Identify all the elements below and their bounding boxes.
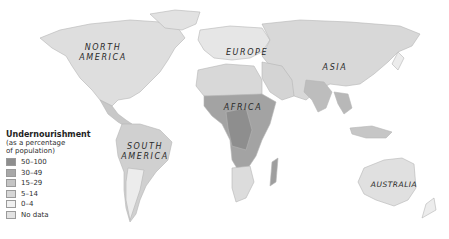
- legend-label: 5–14: [21, 190, 38, 198]
- label-europe: EUROPE: [222, 48, 272, 58]
- madagascar-shape: [270, 158, 278, 186]
- label-line: AFRICA: [218, 103, 268, 113]
- legend-label: 30–49: [21, 169, 42, 177]
- label-line: AUSTRALIA: [364, 180, 424, 190]
- label-line: EUROPE: [222, 48, 272, 58]
- label-line: NORTH: [68, 43, 138, 53]
- north-america-shape: [40, 20, 185, 106]
- label-africa: AFRICA: [218, 103, 268, 113]
- legend-subtitle: of population): [6, 147, 86, 155]
- legend-item: 0–4: [6, 199, 86, 210]
- label-north-america: NORTH AMERICA: [68, 43, 138, 63]
- legend-item: No data: [6, 210, 86, 221]
- new-zealand-shape: [422, 198, 436, 218]
- south-america-shape: [116, 124, 172, 222]
- africa-north-shape: [196, 64, 262, 98]
- legend-item: 50–100: [6, 157, 86, 168]
- legend-item: 15–29: [6, 178, 86, 189]
- legend-title: Undernourishment: [6, 130, 86, 139]
- legend-item: 5–14: [6, 189, 86, 200]
- label-line: AMERICA: [68, 53, 138, 63]
- swatch-0-4: [6, 200, 16, 208]
- indonesia-shape: [350, 126, 392, 138]
- label-south-america: SOUTH AMERICA: [110, 142, 180, 162]
- legend-label: 15–29: [21, 179, 42, 187]
- label-asia: ASIA: [310, 63, 360, 73]
- legend-label: 50–100: [21, 158, 47, 166]
- legend-label: 0–4: [21, 200, 33, 208]
- label-line: ASIA: [310, 63, 360, 73]
- swatch-30-49: [6, 169, 16, 177]
- legend-subtitle: (as a percentage: [6, 139, 86, 147]
- swatch-5-14: [6, 190, 16, 198]
- swatch-15-29: [6, 179, 16, 187]
- legend-label: No data: [21, 211, 49, 219]
- legend-items: 50–100 30–49 15–29 5–14 0–4 No data: [6, 157, 86, 220]
- africa-south-shape: [232, 166, 254, 202]
- legend-item: 30–49: [6, 168, 86, 179]
- label-australia: AUSTRALIA: [364, 180, 424, 190]
- legend: Undernourishment (as a percentage of pop…: [6, 130, 86, 220]
- swatch-no-data: [6, 211, 16, 219]
- southeast-asia-shape: [334, 92, 352, 114]
- swatch-50-100: [6, 158, 16, 166]
- label-line: SOUTH: [110, 142, 180, 152]
- label-line: AMERICA: [110, 152, 180, 162]
